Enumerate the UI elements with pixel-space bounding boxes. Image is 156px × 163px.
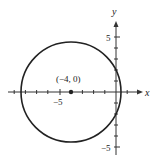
y-tick-label-neg5: −5: [101, 143, 111, 153]
circle-graph: x −5 y 5 −5 (−4, 0): [0, 0, 156, 163]
center-point: [69, 90, 73, 94]
x-tick-label-neg5: −5: [53, 97, 63, 107]
x-axis-label: x: [144, 87, 150, 98]
y-axis-arrow-icon: [114, 21, 119, 27]
x-axis-arrow-icon: [137, 90, 143, 95]
y-axis: y 5 −5: [101, 6, 120, 155]
x-axis: x −5: [8, 87, 150, 107]
y-tick-label-5: 5: [106, 33, 111, 43]
y-axis-label: y: [111, 6, 117, 17]
center-label: (−4, 0): [56, 74, 81, 84]
